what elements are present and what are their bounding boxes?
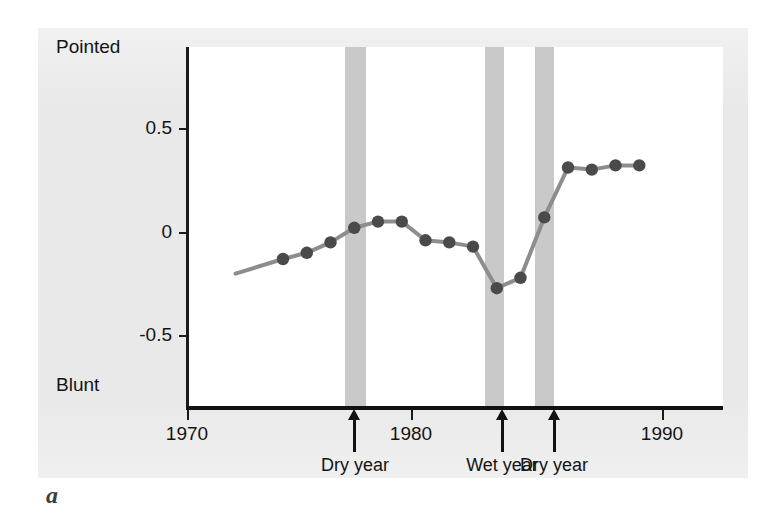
- y-axis-pole-low-label: Blunt: [56, 374, 99, 396]
- x-tick-mark-0: [187, 410, 189, 420]
- annotation-label-dry-1985: Dry year: [499, 455, 609, 476]
- x-tick-mark-1: [411, 410, 413, 420]
- y-axis-pole-high-label: Pointed: [56, 36, 120, 58]
- annotation-arrow-dry-1985: [553, 418, 556, 452]
- x-tick-label-2: 1990: [622, 423, 702, 445]
- y-tick-label-0: 0.5: [98, 117, 172, 139]
- annotation-label-dry-1977: Dry year: [300, 455, 410, 476]
- x-tick-label-0: 1970: [147, 423, 227, 445]
- event-band-wet-1983: [485, 47, 504, 408]
- y-tick-label-2: -0.5: [92, 324, 172, 346]
- y-tick-label-1: 0: [98, 221, 172, 243]
- y-tick-mark-0: [179, 128, 188, 130]
- event-band-dry-1985: [535, 47, 554, 408]
- x-tick-label-1: 1980: [371, 423, 451, 445]
- x-tick-mark-2: [662, 410, 664, 420]
- event-band-dry-1977: [345, 47, 366, 408]
- y-axis-line: [186, 47, 189, 408]
- x-axis-line: [186, 406, 723, 410]
- y-tick-mark-1: [179, 232, 188, 234]
- annotation-arrow-dry-1977: [353, 418, 356, 452]
- figure-part-letter: a: [46, 482, 58, 509]
- plot-area: [188, 47, 723, 408]
- y-tick-mark-2: [179, 335, 188, 337]
- annotation-arrow-wet-1983: [501, 418, 504, 452]
- figure-root: 0.5 0 -0.5 Pointed Blunt 1970 1980 1990 …: [0, 0, 781, 519]
